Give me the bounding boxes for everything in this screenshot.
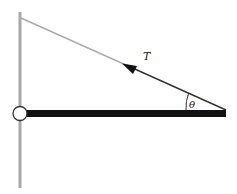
beam [20, 110, 226, 117]
string-lower [127, 66, 226, 111]
tension-arrow-icon [122, 64, 137, 75]
hinge-pivot [13, 107, 27, 121]
beam-diagram: T θ [0, 0, 237, 194]
string-upper [21, 18, 127, 66]
tension-label: T [143, 50, 152, 63]
angle-label: θ [189, 99, 195, 110]
